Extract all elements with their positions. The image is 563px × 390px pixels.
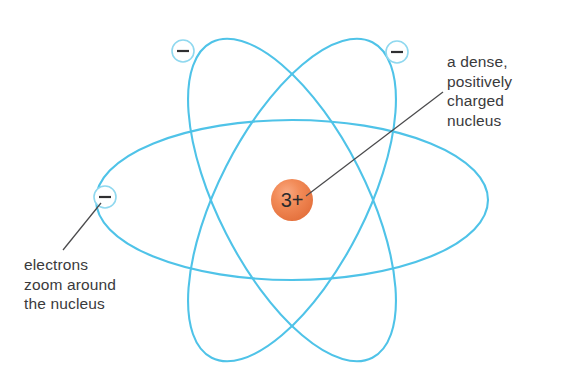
nucleus-label-line-3: charged xyxy=(447,91,512,111)
electrons-label-line-1: electrons xyxy=(24,255,116,275)
electron-top-left xyxy=(172,40,194,62)
nucleus-pointer-line xyxy=(306,92,443,196)
pointer-group xyxy=(63,92,443,250)
electrons-label-line-3: the nucleus xyxy=(24,294,116,314)
nucleus-charge-label: 3+ xyxy=(281,189,303,211)
nucleus-label-line-1: a dense, xyxy=(447,52,512,72)
nucleus-annotation-label: a dense, positively charged nucleus xyxy=(447,52,512,130)
electrons-pointer-line xyxy=(63,203,101,250)
electrons-label-line-2: zoom around xyxy=(24,275,116,295)
electrons-annotation-label: electrons zoom around the nucleus xyxy=(24,255,116,314)
electron-left xyxy=(94,186,116,208)
electron-top-right xyxy=(386,41,408,63)
atom-diagram-figure: 3+ a dense, positively charged nucleus xyxy=(0,0,563,390)
nucleus-label-line-4: nucleus xyxy=(447,111,512,131)
nucleus: 3+ xyxy=(271,179,313,221)
nucleus-label-line-2: positively xyxy=(447,72,512,92)
